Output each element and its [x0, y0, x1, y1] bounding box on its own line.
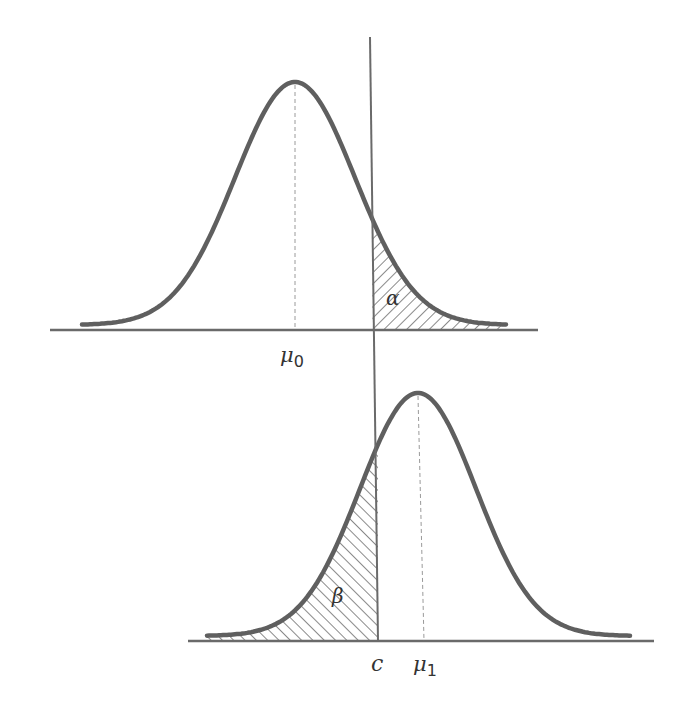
null-normal-curve: [82, 82, 506, 325]
null-distribution-panel: α μ0: [50, 82, 538, 371]
beta-label: β: [331, 584, 344, 608]
alternative-normal-curve: [207, 393, 630, 636]
mu0-label: μ0: [280, 343, 304, 371]
hypothesis-test-diagram: α μ0 β c μ1: [0, 0, 690, 717]
alpha-label: α: [386, 286, 400, 310]
mu1-mean-dashed-line: [418, 396, 424, 641]
alternative-distribution-panel: β c μ1: [188, 393, 654, 680]
mu1-label: μ1: [413, 652, 437, 680]
critical-value-label: c: [371, 651, 383, 676]
